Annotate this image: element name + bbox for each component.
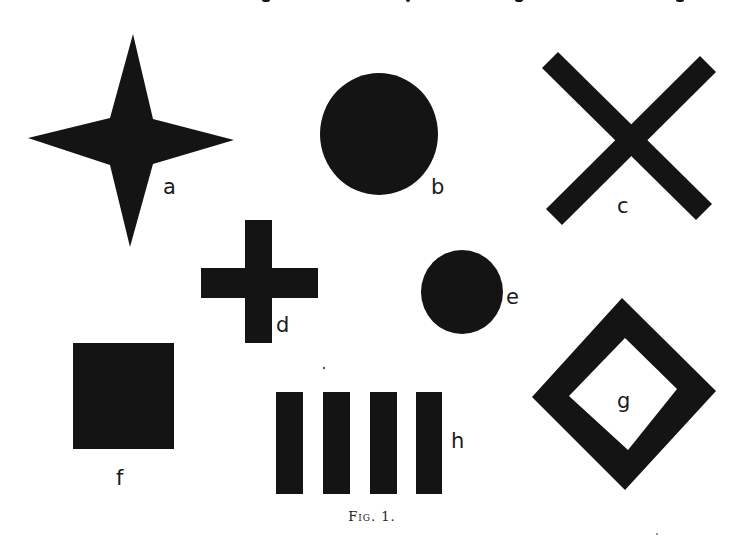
label-g: g [617, 389, 630, 413]
label-b: b [431, 175, 444, 199]
label-d: d [276, 313, 289, 337]
label-a: a [163, 175, 176, 199]
shape-f-square: f [73, 343, 174, 490]
shape-c-x-cross: c [542, 52, 716, 225]
speck [656, 533, 658, 535]
shape-h-bars: h [276, 392, 464, 494]
figure-caption: Fig. 1. [348, 509, 395, 524]
label-f: f [116, 466, 124, 490]
shape-a-star: a [28, 34, 234, 247]
label-c: c [617, 194, 629, 218]
shape-b-circle: b [320, 73, 444, 199]
speck [323, 367, 325, 369]
label-e: e [506, 285, 519, 309]
shape-d-plus: d [201, 220, 318, 343]
figure-fig-1: a b c d e f g h Fig. 1. [0, 0, 744, 551]
clipped-text-remnants [262, 0, 684, 2]
shape-e-circle: e [421, 250, 519, 334]
shape-g-diamond: g [532, 298, 716, 490]
label-h: h [451, 429, 464, 453]
